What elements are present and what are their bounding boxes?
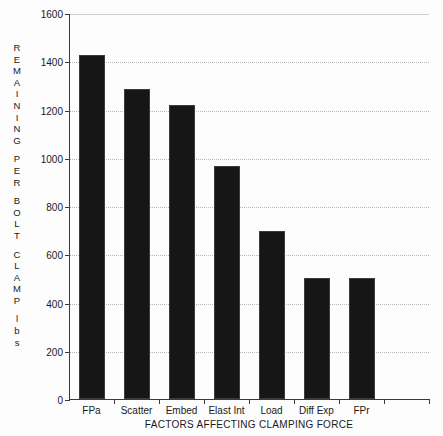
y-axis-title-char: O	[13, 207, 20, 219]
y-tick-label: 1200	[41, 105, 63, 116]
y-axis-title-char: E	[14, 54, 20, 66]
y-axis-title-char: l	[16, 313, 18, 325]
y-axis-title-char: A	[14, 272, 20, 284]
y-tick-label: 200	[46, 346, 63, 357]
y-axis-title-char: s	[15, 337, 20, 349]
y-tick-label: 600	[46, 250, 63, 261]
bar	[79, 55, 105, 399]
x-axis-title: FACTORS AFFECTING CLAMPING FORCE	[69, 419, 429, 430]
bar	[214, 166, 240, 399]
gridline	[69, 14, 429, 16]
y-axis-title-char: M	[13, 283, 21, 295]
y-axis-title-char: G	[13, 135, 20, 147]
bar-chart: REMAININGPERBOLTCLAMPlbs 020040060080010…	[0, 0, 443, 436]
y-axis-title: REMAININGPERBOLTCLAMPlbs	[8, 42, 26, 382]
y-axis-title-char: C	[14, 249, 21, 261]
y-axis-title-char: P	[14, 153, 20, 165]
y-axis-title-char: B	[14, 195, 20, 207]
bar	[304, 278, 330, 399]
y-axis-title-char: R	[14, 177, 21, 189]
bar	[169, 105, 195, 399]
y-axis-title-char: R	[14, 42, 21, 54]
y-tick-label: 1600	[41, 9, 63, 20]
x-tick-label: FPr	[353, 405, 369, 416]
y-axis-title-char: E	[14, 165, 20, 177]
y-axis-title-char: T	[14, 230, 20, 242]
x-tick-label: Scatter	[121, 405, 153, 416]
x-tick-label: Elast Int	[208, 405, 244, 416]
y-axis-line	[69, 14, 70, 400]
y-axis-title-char: N	[14, 123, 21, 135]
bar	[259, 231, 285, 399]
bar	[349, 278, 375, 399]
y-axis-title-char: A	[14, 77, 20, 89]
y-axis-title-char: I	[16, 88, 19, 100]
y-axis-title-char: b	[14, 325, 19, 337]
y-tick-label: 0	[57, 395, 63, 406]
y-axis-title-char: L	[14, 260, 19, 272]
y-tick-label: 400	[46, 298, 63, 309]
gridline	[69, 62, 429, 64]
bar	[124, 89, 150, 399]
x-tick-label: Diff Exp	[299, 405, 334, 416]
y-axis-title-char: P	[14, 295, 20, 307]
plot-area: 02004006008001000120014001600 FPaScatter…	[69, 14, 429, 400]
y-axis-title-char: N	[14, 100, 21, 112]
y-axis-title-char: L	[14, 218, 19, 230]
x-tick-label: Load	[260, 405, 282, 416]
y-axis-title-char: M	[13, 65, 21, 77]
x-axis-line	[69, 399, 429, 400]
y-tick-label: 1000	[41, 153, 63, 164]
y-tick-label: 800	[46, 202, 63, 213]
y-axis-title-char: I	[16, 112, 19, 124]
y-tick-mark	[65, 400, 70, 401]
x-tick-mark	[429, 399, 430, 404]
y-tick-label: 1400	[41, 57, 63, 68]
x-tick-label: Embed	[166, 405, 198, 416]
x-tick-label: FPa	[82, 405, 100, 416]
